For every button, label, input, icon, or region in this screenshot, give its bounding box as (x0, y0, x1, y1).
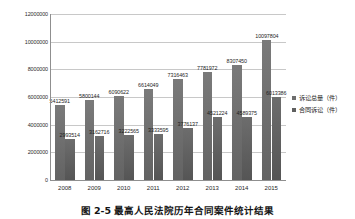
bar (95, 136, 105, 180)
bar-group: 100978046013386 (262, 14, 282, 180)
x-axis-tick-label: 2010 (110, 184, 138, 193)
bar (203, 72, 213, 180)
bar (242, 117, 252, 180)
bar-group: 73164633776137 (173, 14, 193, 180)
y-axis-tick-label: 4000000 (2, 122, 48, 128)
figure-caption: 图 2-5 最高人民法院历年合同案件统计结果 (0, 203, 355, 219)
bar-value-label: 4589375 (236, 110, 258, 116)
bar-value-label: 6614049 (137, 82, 159, 88)
bar-value-label: 3333595 (147, 127, 169, 133)
bar (173, 79, 183, 180)
y-axis-tick-label: 8000000 (2, 66, 48, 72)
x-axis-tick-label: 2008 (51, 184, 79, 193)
bar-group: 60906223222565 (114, 14, 134, 180)
x-axis-ticks: 20082009201020112012201320142015 (50, 184, 286, 196)
legend-swatch-icon (292, 96, 296, 100)
bar-value-label: 3776137 (177, 121, 199, 127)
bar (272, 97, 282, 180)
chart-legend: 诉讼总量（件） 合同诉讼（件） (292, 94, 355, 118)
bar-group: 58001443162716 (85, 14, 105, 180)
y-axis-tick-label: 0 (2, 177, 48, 183)
bar (154, 134, 164, 180)
y-axis-tick-label: 12000000 (2, 11, 48, 17)
y-axis-line (50, 14, 51, 181)
bar-value-label: 6090622 (108, 89, 130, 95)
bar (124, 135, 134, 180)
bar-group: 66140493333595 (144, 14, 164, 180)
y-axis: 0200000040000006000000800000010000000120… (0, 0, 48, 200)
bar (144, 89, 154, 180)
y-axis-tick-label: 6000000 (2, 94, 48, 100)
bar-value-label: 8307450 (226, 58, 248, 64)
x-axis-tick-label: 2015 (257, 184, 285, 193)
legend-item-series-1: 诉讼总量（件） (292, 94, 355, 101)
bar (85, 100, 95, 180)
x-axis-line (50, 180, 286, 181)
y-axis-tick-label: 10000000 (2, 39, 48, 45)
bar-value-label: 4521224 (206, 110, 228, 116)
bar (262, 40, 272, 180)
bar (55, 105, 65, 180)
bar-value-label: 3222565 (118, 128, 140, 134)
bar-value-label: 3162716 (88, 129, 110, 135)
x-axis-tick-label: 2009 (80, 184, 108, 193)
bars-area: 5412591299351458001443162716609062232225… (50, 14, 286, 180)
legend-item-series-2: 合同诉讼（件） (292, 106, 355, 113)
legend-label-series-2: 合同诉讼（件） (299, 106, 341, 113)
bar-value-label: 7316463 (167, 72, 189, 78)
bar-group: 83074504589375 (232, 14, 252, 180)
bar-group: 77819724521224 (203, 14, 223, 180)
bar-value-label: 6013386 (265, 90, 287, 96)
bar-value-label: 10097804 (255, 33, 277, 39)
x-axis-tick-label: 2012 (169, 184, 197, 193)
bar (65, 139, 75, 180)
bar (183, 128, 193, 180)
x-axis-tick-label: 2011 (139, 184, 167, 193)
x-axis-tick-label: 2014 (228, 184, 256, 193)
bar-value-label: 7781972 (196, 65, 218, 71)
bar (213, 117, 223, 180)
bar-value-label: 5412591 (49, 98, 71, 104)
x-axis-tick-label: 2013 (198, 184, 226, 193)
bar-value-label: 2993514 (59, 132, 81, 138)
plot-area-wrapper: 0200000040000006000000800000010000000120… (0, 0, 355, 200)
y-axis-tick-label: 2000000 (2, 149, 48, 155)
bar (232, 65, 242, 180)
bar (114, 96, 124, 180)
legend-label-series-1: 诉讼总量（件） (299, 94, 341, 101)
chart-container: 0200000040000006000000800000010000000120… (0, 0, 355, 219)
bar-value-label: 5800144 (78, 93, 100, 99)
bar-group: 54125912993514 (55, 14, 75, 180)
legend-swatch-icon (292, 108, 296, 112)
